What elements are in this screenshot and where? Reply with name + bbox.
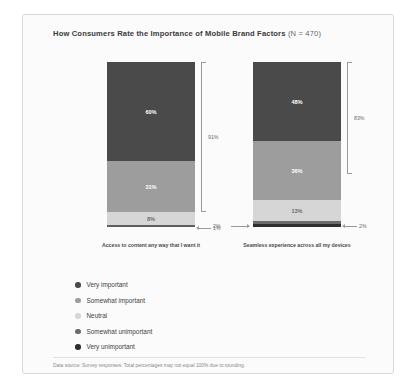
segment-somewhat-unimportant-0[interactable] [107,225,195,227]
category-label-1: Seamless experience across all my device… [209,242,385,248]
legend-item-somewhat-important[interactable]: Somewhat important [75,293,152,309]
legend-swatch-icon [75,282,81,288]
chart-card: How Consumers Rate the Importance of Mob… [22,14,394,374]
segment-somewhat-important-1[interactable]: 36% [253,141,341,200]
legend-item-somewhat-unimportant[interactable]: Somewhat unimportant [75,324,152,340]
callout-label-right-1: 2% [359,223,367,229]
stacked-bar-0: 60% 31% 8% [107,62,195,227]
footer-divider [53,357,365,358]
callout-line-right-1 [345,226,357,227]
callout-line-0 [199,228,211,229]
legend-swatch-icon [75,313,81,319]
callout-label-left-1: 2% [213,223,221,229]
page-title: How Consumers Rate the Importance of Mob… [53,29,321,38]
segment-very-important-0[interactable]: 60% [107,62,195,161]
legend-swatch-icon [75,298,81,304]
callout-arrow-0 [196,226,199,230]
segment-very-unimportant-1[interactable] [253,224,341,227]
segment-somewhat-important-0[interactable]: 31% [107,161,195,212]
legend-label: Somewhat important [87,297,146,304]
title-text: How Consumers Rate the Importance of Mob… [53,29,286,38]
legend-item-very-unimportant[interactable]: Very unimportant [75,339,152,355]
stacked-bar-1: 48% 36% 13% [253,62,341,227]
legend-swatch-icon [75,344,81,350]
bracket-label-0: 91% [208,134,218,140]
segment-very-important-1[interactable]: 48% [253,62,341,141]
bracket-1: 83% [347,62,348,174]
callout-arrow-left-1 [247,224,250,228]
legend-label: Neutral [87,312,108,319]
legend-label: Somewhat unimportant [87,328,153,335]
legend: Very important Somewhat important Neutra… [75,277,152,355]
bracket-label-1: 83% [354,115,364,121]
legend-label: Very unimportant [87,343,135,350]
bracket-0: 91% [201,62,202,212]
footnote: Data source: Survey responses. Total per… [53,363,245,368]
segment-neutral-1[interactable]: 13% [253,200,341,221]
title-sample-size: (N = 470) [288,29,321,38]
legend-swatch-icon [75,329,81,335]
legend-label: Very important [87,281,128,288]
legend-item-very-important[interactable]: Very important [75,277,152,293]
legend-item-neutral[interactable]: Neutral [75,308,152,324]
callout-arrow-right-1 [342,224,345,228]
segment-neutral-0[interactable]: 8% [107,212,195,225]
